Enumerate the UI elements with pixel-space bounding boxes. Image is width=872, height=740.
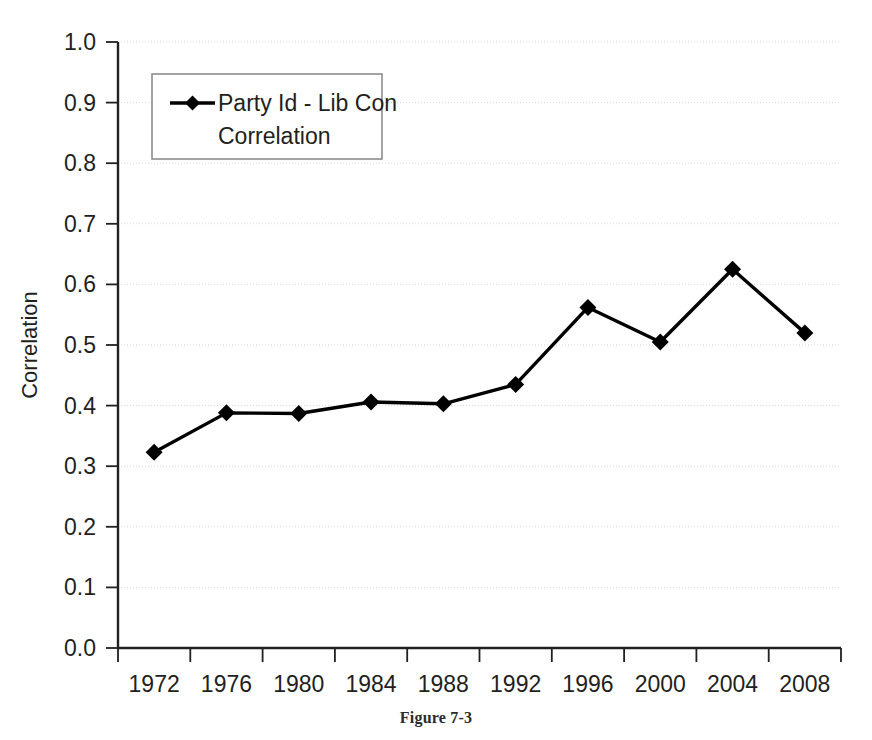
x-axis-tick-label: 1976 [201,671,252,697]
legend-label-line-1: Party Id - Lib Con [218,90,397,116]
series-line [154,269,805,452]
y-axis-tick-label: 0.7 [64,211,96,237]
data-point-marker [435,395,452,412]
y-axis-title: Correlation [17,291,42,399]
data-point-marker [218,404,235,421]
y-axis-tick-label: 0.3 [64,453,96,479]
x-axis-tick-label: 2004 [707,671,758,697]
figure-container: 0.00.10.20.30.40.50.60.70.80.91.0 197219… [0,0,872,740]
x-axis-tick-label: 1988 [418,671,469,697]
y-axis-tick-label: 0.5 [64,332,96,358]
chart-legend: Party Id - Lib Con Correlation [152,74,397,159]
x-axis-tick-label: 2000 [635,671,686,697]
y-axis-tick-label: 0.2 [64,514,96,540]
data-point-marker [290,405,307,422]
x-axis-ticks: 1972197619801984198819921996200020042008 [118,648,841,697]
x-axis-tick-label: 2008 [779,671,830,697]
data-series-group [146,261,814,461]
data-point-marker [146,444,163,461]
y-axis-ticks: 0.00.10.20.30.40.50.60.70.80.91.0 [64,29,118,661]
x-axis-tick-label: 1996 [562,671,613,697]
data-point-marker [363,393,380,410]
y-axis-tick-label: 0.6 [64,271,96,297]
line-chart: 0.00.10.20.30.40.50.60.70.80.91.0 197219… [0,0,872,740]
figure-caption: Figure 7-3 [0,709,872,727]
x-axis-tick-label: 1992 [490,671,541,697]
y-axis-tick-label: 1.0 [64,29,96,55]
y-axis-tick-label: 0.9 [64,90,96,116]
y-axis-tick-label: 0.1 [64,574,96,600]
y-axis-tick-label: 0.4 [64,393,96,419]
legend-label-line-2: Correlation [218,123,331,149]
y-axis-tick-label: 0.8 [64,150,96,176]
x-axis-tick-label: 1984 [345,671,396,697]
x-axis-tick-label: 1972 [129,671,180,697]
y-axis-tick-label: 0.0 [64,635,96,661]
x-axis-tick-label: 1980 [273,671,324,697]
